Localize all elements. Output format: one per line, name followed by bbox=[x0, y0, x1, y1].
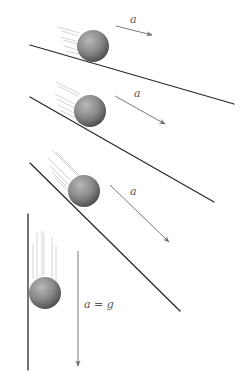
acceleration-arrow-icon bbox=[115, 96, 165, 124]
acceleration-label: a = g bbox=[84, 298, 114, 311]
motion-lines bbox=[33, 231, 56, 282]
motion-line bbox=[55, 94, 75, 104]
panel-shallow-incline: a bbox=[30, 13, 234, 104]
motion-lines bbox=[58, 27, 80, 54]
incline-acceleration-diagram: aaaa = g bbox=[0, 0, 248, 388]
acceleration-label: a bbox=[130, 185, 137, 198]
acceleration-label: a bbox=[134, 87, 141, 100]
motion-line bbox=[48, 158, 70, 180]
incline-surface bbox=[30, 97, 214, 202]
motion-line bbox=[58, 86, 78, 96]
motion-line bbox=[52, 172, 68, 188]
ball bbox=[74, 95, 106, 127]
ball bbox=[77, 30, 109, 62]
ball bbox=[68, 175, 100, 207]
ball bbox=[29, 277, 61, 309]
acceleration-arrow-icon bbox=[110, 185, 169, 242]
motion-line bbox=[60, 37, 76, 41]
motion-line bbox=[57, 99, 74, 108]
motion-line bbox=[56, 152, 80, 176]
acceleration-arrow-icon bbox=[116, 26, 152, 35]
motion-line bbox=[58, 105, 74, 113]
motion-line bbox=[56, 82, 80, 94]
acceleration-label: a bbox=[130, 13, 137, 26]
motion-line bbox=[64, 46, 78, 50]
motion-line bbox=[58, 27, 80, 33]
motion-line bbox=[60, 110, 75, 118]
motion-line bbox=[66, 51, 79, 54]
incline-surface bbox=[30, 45, 234, 104]
panel-vertical-drop: a = g bbox=[28, 214, 114, 370]
panel-medium-incline: a bbox=[30, 82, 214, 202]
